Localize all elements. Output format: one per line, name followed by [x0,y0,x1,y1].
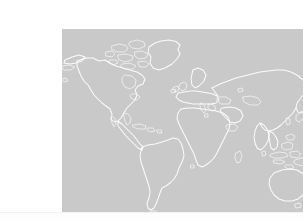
landmass-south-america [140,138,184,215]
landmass-africa [177,108,242,167]
landmass-greenland [148,40,180,70]
landmass-arabia [220,107,243,123]
landmass-asia [212,70,303,156]
page-root [0,0,303,219]
landmass-caribbean [133,124,162,133]
world-map-image [62,29,303,219]
landmass-australia [269,169,303,208]
landmass-europe [173,68,231,113]
page-bottom-band [0,213,303,219]
world-map-svg [62,29,303,219]
page-bottom-rule [0,212,303,213]
landmass-indonesia [270,134,303,169]
